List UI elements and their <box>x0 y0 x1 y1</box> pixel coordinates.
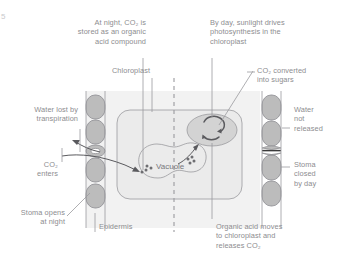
guard-cell-icon <box>86 95 105 119</box>
guard-cell-icon <box>86 158 105 182</box>
guard-cell-icon <box>262 181 281 206</box>
guard-cell-icon <box>86 184 105 208</box>
annotation-co2-converted: CO₂ converted into sugars <box>257 66 342 85</box>
annotation-water-lost: Water lost by transpiration <box>6 105 78 124</box>
annotation-chloroplast: Chloroplast <box>95 66 150 75</box>
label-vacuole: Vacuole <box>156 162 184 171</box>
annotation-water-not-released: Water not released <box>294 105 344 133</box>
figure-number-mark: 5 <box>1 12 5 21</box>
guard-cell-icon <box>86 120 105 144</box>
cam-photosynthesis-diagram: 5 At night, CO₂ is stored as an organic … <box>0 0 346 265</box>
annotation-organic-acid-moves: Organic acid moves to chloroplast and re… <box>216 222 326 250</box>
annotation-stoma-closed: Stoma closed by day <box>294 160 344 188</box>
guard-cell-icon <box>262 121 281 146</box>
guard-cell-icon <box>262 155 281 180</box>
annotation-night-store: At night, CO₂ is stored as an organic ac… <box>48 18 146 46</box>
annotation-co2-enters: CO₂ enters <box>8 160 58 179</box>
annotation-stoma-opens: Stoma opens at night <box>2 208 65 227</box>
stoma-closed-pore <box>262 146 281 155</box>
chloroplast-oval-icon <box>187 114 237 146</box>
guard-cell-icon <box>262 95 281 120</box>
annotation-epidermis: Epidermis <box>99 222 159 231</box>
annotation-day-photosynthesis: By day, sunlight drives photosynthesis i… <box>210 18 318 46</box>
